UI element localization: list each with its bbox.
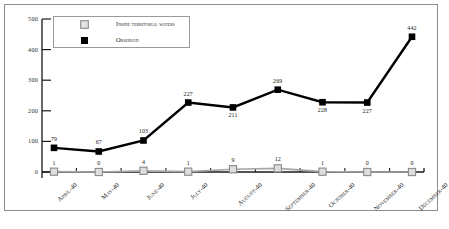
data-point-marker-inside-territorial-waters	[95, 168, 102, 175]
data-point-marker-observed	[230, 104, 237, 111]
data-label-inside-territorial-waters: 9	[221, 157, 245, 163]
data-label-observed: 227	[355, 108, 379, 114]
data-label-observed: 103	[132, 128, 156, 134]
y-axis-tick-label: 0	[16, 168, 38, 175]
data-label-inside-territorial-waters: 1	[42, 160, 66, 166]
data-label-inside-territorial-waters: 12	[266, 156, 290, 162]
data-point-marker-observed	[95, 148, 102, 155]
data-label-inside-territorial-waters: 1	[176, 160, 200, 166]
legend-item-observed: Observed	[54, 33, 189, 49]
data-point-marker-inside-territorial-waters	[140, 167, 147, 174]
data-label-observed: 228	[311, 107, 335, 113]
data-label-observed: 269	[266, 78, 290, 84]
data-label-observed: 442	[400, 25, 424, 31]
y-axis-tick-label: 500	[16, 15, 38, 22]
data-point-marker-inside-territorial-waters	[50, 168, 57, 175]
y-axis-tick-label: 300	[16, 76, 38, 83]
data-point-marker-observed	[274, 86, 281, 93]
y-axis-tick-label: 400	[16, 46, 38, 53]
data-label-inside-territorial-waters: 4	[132, 159, 156, 165]
data-point-marker-inside-territorial-waters	[319, 168, 326, 175]
data-label-observed: 211	[221, 112, 245, 118]
data-label-observed: 227	[176, 91, 200, 97]
data-label-inside-territorial-waters: 0	[87, 160, 111, 166]
legend-item-inside-territorial-waters: Inside territorial waters	[54, 17, 189, 33]
data-point-marker-inside-territorial-waters	[274, 165, 281, 172]
data-point-marker-inside-territorial-waters	[408, 168, 415, 175]
y-axis-tick-label: 100	[16, 137, 38, 144]
data-label-observed: 79	[42, 136, 66, 142]
data-point-marker-observed	[409, 33, 416, 40]
data-label-inside-territorial-waters: 1	[311, 160, 335, 166]
data-point-marker-observed	[140, 137, 147, 144]
y-axis-tick-label: 200	[16, 107, 38, 114]
data-series	[50, 33, 415, 175]
data-point-marker-observed	[364, 99, 371, 106]
legend-marker-open-square-icon	[80, 20, 89, 29]
data-point-marker-inside-territorial-waters	[229, 166, 236, 173]
series-line-observed	[54, 37, 412, 152]
legend-marker-filled-square-icon	[80, 36, 89, 45]
data-point-marker-inside-territorial-waters	[364, 168, 371, 175]
data-point-marker-inside-territorial-waters	[185, 168, 192, 175]
data-label-observed: 67	[87, 139, 111, 145]
chart-legend: Inside territorial waters Observed	[53, 16, 190, 48]
data-point-marker-observed	[319, 99, 326, 106]
data-label-inside-territorial-waters: 0	[355, 160, 379, 166]
data-point-marker-observed	[185, 99, 192, 106]
legend-label-inside-territorial-waters: Inside territorial waters	[116, 20, 175, 27]
data-point-marker-observed	[51, 145, 58, 152]
data-label-inside-territorial-waters: 0	[400, 160, 424, 166]
legend-label-observed: Observed	[116, 36, 139, 43]
